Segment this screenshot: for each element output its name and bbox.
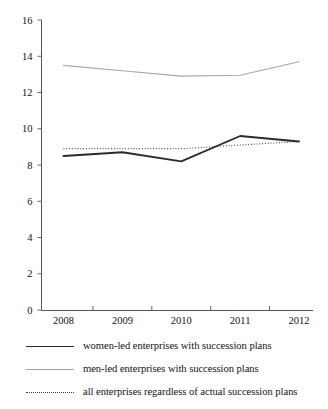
series-line-all-enterprises [64, 141, 300, 148]
legend-label-women-led: women-led enterprises with succession pl… [83, 340, 272, 351]
series-line-men-led [64, 62, 300, 77]
y-tick-label: 0 [27, 305, 32, 316]
x-tick-label: 2010 [171, 315, 192, 326]
y-tick-group [38, 20, 42, 310]
legend-label-all-enterprises: all enterprises regardless of actual suc… [83, 386, 297, 397]
plot-area: 0246810121416 20082009201020112012 [0, 0, 328, 330]
y-tick-label: 4 [27, 232, 33, 243]
y-tick-label: 12 [22, 87, 33, 98]
x-tick-label: 2011 [230, 315, 251, 326]
legend-item-men-led: men-led enterprises with succession plan… [0, 357, 328, 380]
y-tick-label: 16 [22, 15, 33, 26]
x-axis [42, 306, 314, 311]
x-tick-label: 2012 [289, 315, 310, 326]
y-tick-label: 8 [27, 160, 32, 171]
series-group [64, 62, 300, 162]
legend-item-women-led: women-led enterprises with succession pl… [0, 334, 328, 357]
chart-svg: 0246810121416 20082009201020112012 [0, 0, 328, 330]
legend-label-men-led: men-led enterprises with succession plan… [83, 363, 259, 374]
x-tick-group [93, 306, 270, 310]
legend-item-all-enterprises: all enterprises regardless of actual suc… [0, 380, 328, 403]
y-axis [38, 20, 42, 310]
y-tick-label: 2 [27, 268, 32, 279]
chart-legend: women-led enterprises with succession pl… [0, 334, 328, 409]
y-tick-label: 14 [22, 51, 33, 62]
x-tick-label: 2009 [112, 315, 133, 326]
legend-swatch-all-enterprises-icon [26, 386, 74, 398]
line-chart: 0246810121416 20082009201020112012 women… [0, 0, 328, 409]
x-tick-label: 2008 [53, 315, 74, 326]
y-tick-label: 10 [22, 123, 33, 134]
x-tick-labels: 20082009201020112012 [53, 315, 310, 326]
y-tick-label: 6 [27, 196, 32, 207]
legend-swatch-men-led-icon [26, 363, 74, 375]
legend-swatch-women-led-icon [26, 340, 74, 352]
y-tick-labels: 0246810121416 [22, 15, 33, 316]
